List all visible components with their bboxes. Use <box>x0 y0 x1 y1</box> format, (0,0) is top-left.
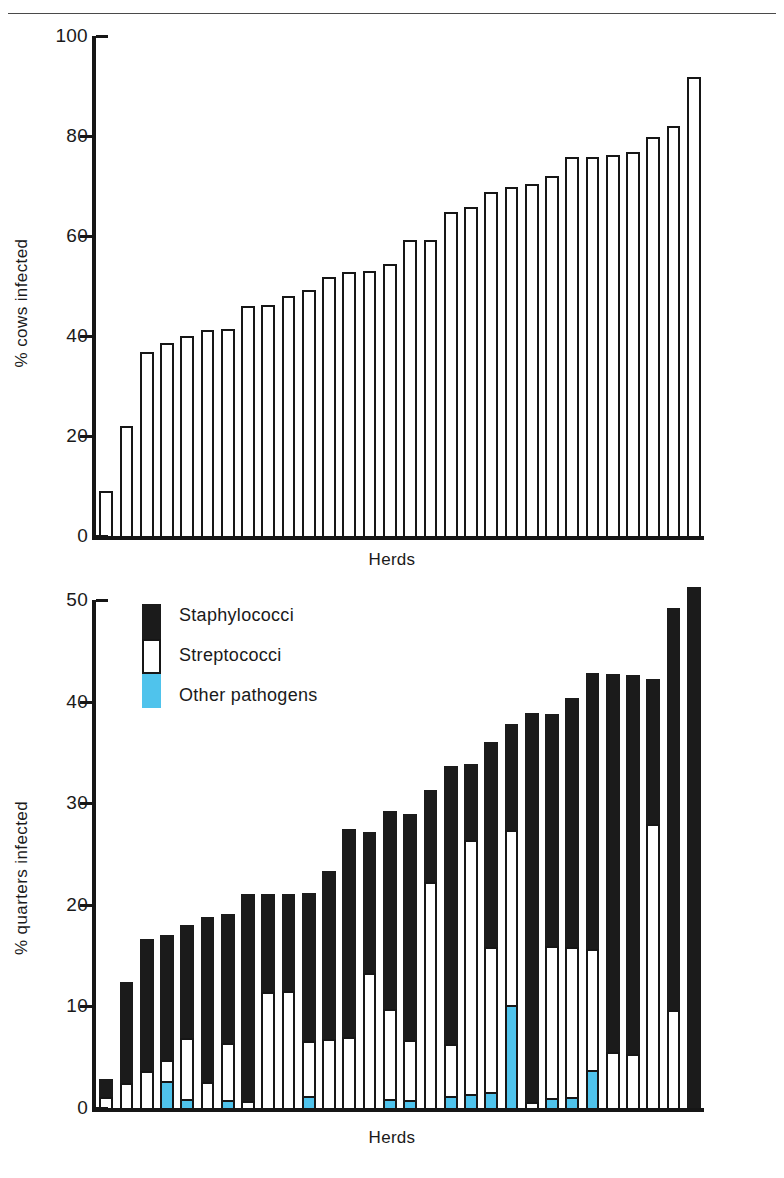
stacked-bar <box>444 766 458 1108</box>
bar <box>302 290 316 536</box>
chart-quarters-infected: % quarters infected 01020304050 Staphylo… <box>0 588 784 1168</box>
segment-staphylococci <box>322 871 336 1039</box>
segment-streptococci <box>464 840 478 1096</box>
bar-slot <box>501 36 521 536</box>
stacked-bar <box>525 713 539 1108</box>
bar-slot <box>299 36 319 536</box>
bar <box>221 329 235 536</box>
segment-streptococci <box>444 1044 458 1098</box>
segment-streptococci <box>403 1040 417 1102</box>
y-tick-mark <box>80 135 92 138</box>
y-tick-mark <box>80 235 92 238</box>
y-tick-label: 0 <box>77 1097 88 1119</box>
bar-slot <box>542 600 562 1108</box>
bar-slot <box>420 600 440 1108</box>
stacked-bar <box>424 790 438 1108</box>
bar <box>363 271 377 537</box>
segment-other-pathogens <box>565 1099 579 1108</box>
segment-streptococci <box>160 1060 174 1082</box>
bar-slot <box>96 600 116 1108</box>
segment-other-pathogens <box>180 1101 194 1108</box>
bar-slot <box>603 36 623 536</box>
segment-staphylococci <box>586 673 600 948</box>
bar <box>120 426 134 536</box>
segment-staphylococci <box>241 894 255 1101</box>
bar <box>99 491 113 536</box>
y-tick-mark <box>96 535 108 538</box>
segment-staphylococci <box>646 679 660 823</box>
bar <box>241 306 255 536</box>
bar-slot <box>380 36 400 536</box>
stacked-bar <box>403 814 417 1108</box>
y-tick-label: 100 <box>55 25 88 47</box>
legend-swatch-staphylococci <box>142 604 161 639</box>
segment-streptococci <box>282 991 296 1108</box>
stacked-bar <box>667 608 681 1108</box>
bar-slot <box>359 600 379 1108</box>
bar <box>505 187 519 536</box>
segment-other-pathogens <box>586 1072 600 1108</box>
bar-slot <box>663 600 683 1108</box>
bar <box>484 192 498 536</box>
bar-slot <box>562 600 582 1108</box>
segment-streptococci <box>646 824 660 1108</box>
stacked-bar <box>464 764 478 1108</box>
stacked-bar <box>342 829 356 1108</box>
stacked-bar <box>221 914 235 1108</box>
bar-slot <box>603 600 623 1108</box>
segment-streptococci <box>383 1009 397 1100</box>
bar <box>606 155 620 536</box>
legend-swatch-bar <box>142 604 161 708</box>
bar-slot <box>197 36 217 536</box>
bar <box>261 305 275 536</box>
segment-staphylococci <box>667 608 681 1010</box>
bar-slot <box>643 36 663 536</box>
stacked-bar <box>586 673 600 1108</box>
y-axis-label-quarters: % quarters infected <box>0 588 44 1168</box>
bar-slot <box>96 36 116 536</box>
bar-slot <box>643 600 663 1108</box>
stacked-bar <box>363 832 377 1108</box>
bar <box>646 137 660 537</box>
bar-slot <box>441 600 461 1108</box>
stacked-bar <box>99 1079 113 1108</box>
bar <box>444 212 458 537</box>
bar <box>464 207 478 537</box>
segment-streptococci <box>545 946 559 1099</box>
stacked-bar <box>261 894 275 1108</box>
segment-streptococci <box>586 949 600 1073</box>
bar <box>140 352 154 536</box>
y-axis-label-cows: % cows infected <box>0 18 44 588</box>
x-axis-line-cows <box>92 536 704 540</box>
segment-other-pathogens <box>302 1098 316 1108</box>
segment-streptococci <box>424 882 438 1108</box>
bar-slot <box>684 36 704 536</box>
stacked-bar <box>282 894 296 1108</box>
segment-streptococci <box>667 1010 681 1108</box>
legend-label-streptococci: Streptococci <box>179 646 318 664</box>
bar-slot <box>238 36 258 536</box>
bar <box>322 277 336 536</box>
stacked-bar <box>241 894 255 1108</box>
segment-staphylococci <box>302 893 316 1041</box>
segment-other-pathogens <box>545 1100 559 1108</box>
segment-other-pathogens <box>444 1098 458 1108</box>
bar-slot <box>461 600 481 1108</box>
bar-slot <box>542 36 562 536</box>
stacked-bar <box>505 724 519 1108</box>
bar-slot <box>319 600 339 1108</box>
segment-staphylococci <box>464 764 478 840</box>
bar-slot <box>522 36 542 536</box>
segment-streptococci <box>322 1039 336 1108</box>
legend: Staphylococci Streptococci Other pathoge… <box>142 604 318 708</box>
segment-staphylococci <box>525 713 539 1102</box>
segment-streptococci <box>120 1083 134 1108</box>
segment-other-pathogens <box>505 1007 519 1108</box>
y-tick-mark <box>80 904 92 907</box>
bar-slot <box>501 600 521 1108</box>
bar-slot <box>218 36 238 536</box>
segment-staphylococci <box>484 742 498 947</box>
bar <box>342 272 356 537</box>
y-tick-label: 0 <box>77 525 88 547</box>
segment-other-pathogens <box>484 1094 498 1108</box>
